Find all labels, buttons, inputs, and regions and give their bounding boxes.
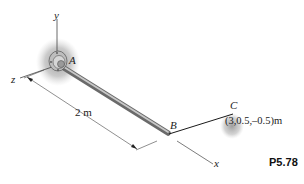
dimension-extension-b	[136, 141, 157, 150]
point-b-label: B	[170, 120, 177, 131]
point-c-label: C	[230, 100, 237, 111]
dimension-arrow-b	[131, 144, 137, 149]
x-axis-label: x	[214, 158, 219, 169]
z-axis-label: z	[11, 74, 15, 85]
diagram-svg	[0, 0, 304, 184]
dimension-label: 2 m	[75, 107, 92, 118]
problem-number: P5.78	[269, 157, 298, 168]
rod-ab-highlight	[64, 67, 168, 132]
dimension-arrow-a	[27, 77, 33, 82]
point-a-label: A	[69, 55, 76, 66]
y-axis-label: y	[54, 10, 59, 21]
diagram-canvas: y z x A B C 2 m (3,0.5,–0.5)m P5.78	[0, 0, 304, 184]
point-c-coordinates: (3,0.5,–0.5)m	[225, 116, 282, 127]
x-axis-line	[177, 141, 213, 164]
support-a-flange	[49, 51, 67, 71]
